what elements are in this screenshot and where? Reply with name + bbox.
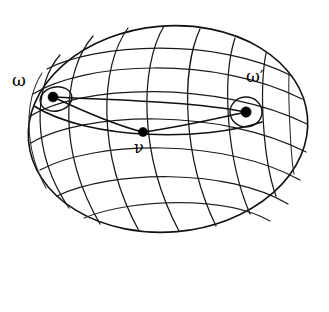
parallel-ring-5 bbox=[40, 148, 300, 180]
point-nu bbox=[138, 127, 147, 136]
meridian-2 bbox=[69, 36, 100, 224]
meridian-5 bbox=[188, 29, 216, 226]
label-omega-prime: ω′ bbox=[246, 68, 264, 85]
parallel-ring-6 bbox=[57, 177, 288, 204]
point-omega-prime bbox=[241, 107, 251, 117]
label-omega: ω bbox=[12, 72, 26, 89]
meridian-8 bbox=[289, 72, 294, 174]
figure-canvas: ω ω′ ν bbox=[0, 0, 329, 312]
point-omega bbox=[48, 92, 58, 102]
parallel-ring-7 bbox=[84, 203, 270, 221]
label-nu: ν bbox=[134, 140, 144, 156]
ellipsoid-diagram bbox=[0, 0, 329, 312]
meridian-7 bbox=[263, 53, 276, 196]
